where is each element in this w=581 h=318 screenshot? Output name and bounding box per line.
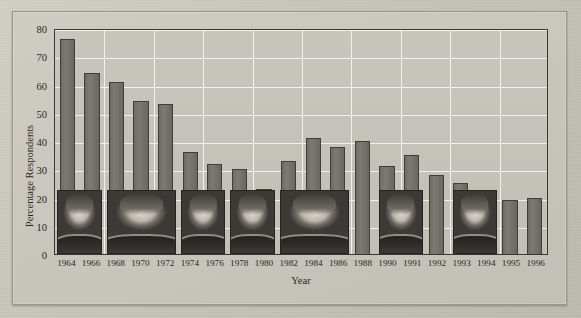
- x-tick-label: 1982: [276, 258, 301, 268]
- x-tick-label: 1986: [326, 258, 351, 268]
- president-photo-gerald-ford: [181, 190, 225, 254]
- x-tick-label: 1974: [178, 258, 203, 268]
- x-tick-label: 1995: [499, 258, 524, 268]
- x-tick-label: 1964: [54, 258, 79, 268]
- x-tick-label: 1993: [449, 258, 474, 268]
- y-tick-label: 0: [42, 250, 47, 261]
- x-tick-label: 1970: [128, 258, 153, 268]
- x-axis-tick-labels: 1964196619681970197219741976197819801982…: [54, 258, 548, 268]
- x-tick-label: 1996: [523, 258, 548, 268]
- president-photo-jimmy-carter: [230, 190, 274, 254]
- x-tick-label: 1991: [400, 258, 425, 268]
- y-tick-label: 30: [37, 165, 48, 176]
- x-tick-label: 1972: [153, 258, 178, 268]
- y-tick-label: 20: [37, 193, 48, 204]
- y-tick-label: 50: [37, 108, 48, 119]
- y-tick-label: 60: [37, 80, 48, 91]
- x-axis-title: Year: [54, 275, 548, 286]
- y-tick-label: 70: [37, 52, 48, 63]
- x-tick-label: 1976: [202, 258, 227, 268]
- president-photo-richard-nixon: [107, 190, 176, 254]
- y-tick-label: 10: [37, 221, 48, 232]
- y-tick-label: 80: [37, 24, 48, 35]
- x-tick-label: 1968: [103, 258, 128, 268]
- x-tick-label: 1988: [350, 258, 375, 268]
- president-photo-overlay: [55, 190, 547, 254]
- y-axis-tick-labels: 80706050403020100: [13, 12, 51, 304]
- y-tick-label: 40: [37, 137, 48, 148]
- chart-panel: Percentage Respondents 80706050403020100…: [12, 11, 567, 305]
- x-tick-label: 1984: [301, 258, 326, 268]
- president-photo-george-h-w-bush: [379, 190, 423, 254]
- president-photo-ronald-reagan: [280, 190, 349, 254]
- x-tick-label: 1992: [425, 258, 450, 268]
- chart-screenshot: Percentage Respondents 80706050403020100…: [0, 0, 581, 318]
- x-tick-label: 1990: [375, 258, 400, 268]
- plot-area: [54, 29, 548, 255]
- x-tick-label: 1994: [474, 258, 499, 268]
- x-tick-label: 1980: [252, 258, 277, 268]
- x-tick-label: 1978: [227, 258, 252, 268]
- president-photo-bill-clinton: [453, 190, 497, 254]
- x-tick-label: 1966: [79, 258, 104, 268]
- president-photo-lyndon-johnson: [57, 190, 101, 254]
